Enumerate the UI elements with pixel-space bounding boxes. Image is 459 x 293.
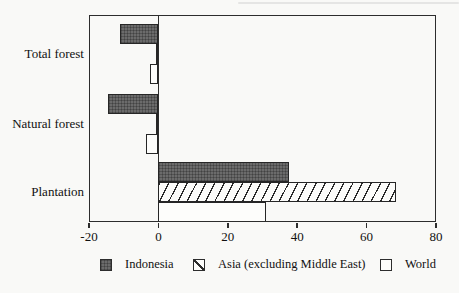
- plot-area: [89, 15, 436, 222]
- category-label-total-forest: Total forest: [0, 47, 84, 61]
- category-label-plantation: Plantation: [0, 185, 84, 199]
- legend-label: World: [405, 257, 436, 272]
- legend-item-world: World: [380, 257, 436, 272]
- x-tick-label: -20: [67, 229, 111, 244]
- x-tick-mark: [296, 223, 298, 228]
- bar-world-total-forest: [150, 64, 159, 84]
- legend-item-asia-excluding-middle-east: Asia (excluding Middle East): [193, 257, 366, 272]
- bar-world-natural-forest: [146, 134, 159, 154]
- bar-indonesia-total-forest: [120, 24, 159, 44]
- scan-artifact: [238, 2, 459, 4]
- forest-change-bar-chart: Total forestNatural forestPlantation -20…: [0, 0, 459, 293]
- x-tick-label: 40: [275, 229, 319, 244]
- legend-item-indonesia: Indonesia: [100, 257, 174, 272]
- bar-asia-excluding-middle-east-total-forest: [156, 44, 158, 64]
- x-tick-mark: [366, 223, 368, 228]
- legend-swatch-indonesia: [100, 259, 112, 271]
- legend-label: Indonesia: [125, 257, 174, 272]
- bar-asia-excluding-middle-east-natural-forest: [156, 114, 159, 134]
- x-tick-mark: [227, 223, 229, 228]
- x-tick-label: 20: [206, 229, 250, 244]
- bar-asia-excluding-middle-east-plantation: [158, 182, 396, 202]
- bar-indonesia-plantation: [158, 162, 288, 182]
- category-label-natural-forest: Natural forest: [0, 117, 84, 131]
- x-tick-label: 0: [136, 229, 180, 244]
- x-tick-label: 60: [345, 229, 389, 244]
- legend-swatch-asia-excluding-middle-east: [193, 259, 205, 271]
- legend-swatch-world: [380, 259, 392, 271]
- bar-indonesia-natural-forest: [108, 94, 158, 114]
- x-tick-mark: [435, 223, 437, 228]
- legend-label: Asia (excluding Middle East): [218, 257, 366, 272]
- x-tick-mark: [88, 223, 90, 228]
- bar-world-plantation: [158, 202, 266, 222]
- x-tick-label: 80: [414, 229, 458, 244]
- x-tick-mark: [158, 223, 160, 228]
